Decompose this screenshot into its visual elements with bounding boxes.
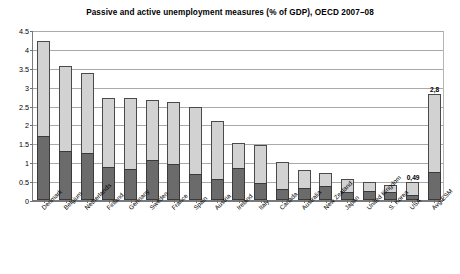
chart-title: Passive and active unemployment measures… bbox=[0, 8, 460, 17]
bar-segment-passive[interactable] bbox=[59, 66, 72, 151]
bar-segment-passive[interactable] bbox=[319, 173, 332, 186]
bar-segment-passive[interactable] bbox=[276, 162, 289, 188]
bar-group[interactable] bbox=[81, 73, 94, 200]
bar-segment-passive[interactable] bbox=[167, 102, 180, 164]
y-axis-label: 0.5 bbox=[19, 178, 29, 187]
y-axis-label: 4 bbox=[25, 45, 29, 54]
bar-segment-passive[interactable] bbox=[298, 170, 311, 188]
bar-segment-passive[interactable] bbox=[254, 145, 267, 183]
bar-segment-active[interactable] bbox=[232, 168, 245, 200]
bar-group[interactable] bbox=[189, 107, 202, 200]
plot-area: 00.511.522.533.544.5 0,492,8 bbox=[32, 31, 444, 201]
y-axis-label: 1 bbox=[25, 159, 29, 168]
y-axis-label: 3.5 bbox=[19, 64, 29, 73]
bar-group[interactable] bbox=[211, 121, 224, 200]
bar-segment-active[interactable] bbox=[124, 169, 137, 200]
bar-group[interactable]: 2,8 bbox=[428, 94, 441, 200]
y-axis-label: 3 bbox=[25, 83, 29, 92]
bars-layer: 0,492,8 bbox=[33, 31, 443, 200]
chart-container: Passive and active unemployment measures… bbox=[0, 0, 460, 274]
bar-segment-passive[interactable] bbox=[102, 98, 115, 167]
y-axis-label: 2 bbox=[25, 121, 29, 130]
bar-segment-passive[interactable] bbox=[81, 73, 94, 152]
bar-group[interactable] bbox=[146, 100, 159, 200]
bar-group[interactable] bbox=[232, 143, 245, 200]
bar-segment-passive[interactable] bbox=[146, 100, 159, 160]
bar-segment-passive[interactable] bbox=[211, 121, 224, 180]
bar-value-label: 0,49 bbox=[407, 174, 420, 181]
y-axis-label: 1.5 bbox=[19, 140, 29, 149]
bar-segment-active[interactable] bbox=[81, 153, 94, 200]
bar-segment-passive[interactable] bbox=[363, 182, 376, 191]
bar-group[interactable] bbox=[59, 66, 72, 200]
y-axis-tick bbox=[30, 201, 33, 202]
bar-segment-active[interactable] bbox=[37, 136, 50, 200]
bar-segment-passive[interactable] bbox=[189, 107, 202, 174]
bar-group[interactable] bbox=[37, 41, 50, 200]
bar-segment-passive[interactable] bbox=[232, 143, 245, 168]
bar-group[interactable] bbox=[124, 98, 137, 200]
bar-group[interactable] bbox=[276, 162, 289, 200]
y-axis-label: 0 bbox=[25, 197, 29, 206]
bar-segment-passive[interactable] bbox=[428, 94, 441, 171]
bar-group[interactable] bbox=[167, 102, 180, 200]
bar-group[interactable] bbox=[254, 145, 267, 200]
bar-segment-active[interactable] bbox=[167, 164, 180, 200]
bar-value-label: 2,8 bbox=[430, 86, 439, 93]
y-axis-label: 4.5 bbox=[19, 27, 29, 36]
bar-segment-passive[interactable] bbox=[124, 98, 137, 169]
y-axis-label: 2.5 bbox=[19, 102, 29, 111]
bar-segment-passive[interactable] bbox=[37, 41, 50, 135]
